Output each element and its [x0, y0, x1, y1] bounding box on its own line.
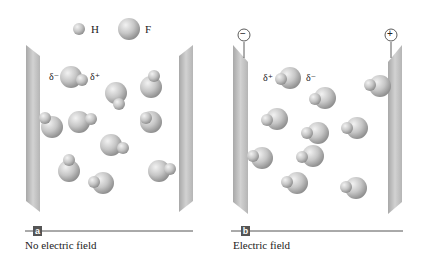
panel-a-molecules: [39, 66, 176, 194]
negative-terminal-sign: −: [240, 28, 246, 39]
legend-h-label: H: [91, 23, 99, 35]
legend-f-label: F: [145, 23, 151, 35]
h-atom-icon: [73, 23, 85, 35]
panel-b-molecules: [247, 67, 391, 199]
legend: [73, 18, 140, 40]
panel-b-plates: [233, 29, 402, 214]
panel-a-delta-plus: δ⁺: [90, 71, 100, 82]
f-atom-icon: [118, 18, 140, 40]
panel-b-delta-minus: δ⁻: [306, 72, 316, 83]
panel-b-tag: b: [241, 226, 250, 236]
panel-b-caption: Electric field: [233, 239, 290, 251]
diagram-canvas: [0, 0, 423, 264]
panel-b-delta-plus: δ⁺: [263, 72, 273, 83]
panel-a-tag: a: [33, 226, 42, 236]
panel-a-delta-minus: δ⁻: [49, 71, 59, 82]
positive-terminal-sign: +: [387, 28, 393, 39]
panel-a-caption: No electric field: [25, 239, 96, 251]
